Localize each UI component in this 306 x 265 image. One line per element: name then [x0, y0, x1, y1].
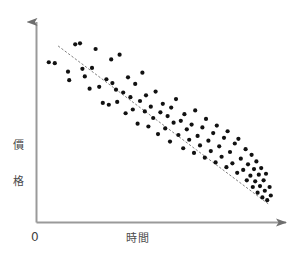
trendline — [58, 46, 268, 204]
scatter-point — [168, 140, 172, 144]
scatter-point — [224, 165, 228, 169]
scatter-point — [254, 159, 258, 163]
scatter-point — [217, 144, 221, 148]
scatter-point — [222, 136, 226, 140]
scatter-point — [94, 47, 98, 51]
scatter-point — [110, 81, 114, 85]
scatter-point — [143, 109, 147, 113]
scatter-point — [230, 161, 234, 165]
scatter-point — [233, 141, 237, 145]
scatter-point — [124, 111, 128, 115]
scatter-point — [151, 116, 155, 120]
scatter-point — [196, 134, 200, 138]
scatter-plot-figure: 價 格 時間 0 — [0, 0, 306, 265]
scatter-point — [246, 162, 250, 166]
scatter-point — [192, 151, 196, 155]
scatter-point — [121, 90, 125, 94]
scatter-point — [220, 155, 224, 159]
scatter-point — [114, 88, 118, 92]
scatter-point — [252, 167, 256, 171]
scatter-point — [179, 119, 183, 123]
scatter-point — [251, 185, 255, 189]
scatter-point — [253, 179, 257, 183]
scatter-point — [115, 100, 119, 104]
scatter-point — [78, 41, 82, 45]
scatter-point — [161, 102, 165, 106]
scatter-point — [244, 147, 248, 151]
scatter-point — [206, 139, 210, 143]
scatter-point — [47, 60, 51, 64]
scatter-point — [209, 149, 213, 153]
scatter-point — [144, 93, 148, 97]
scatter-point — [174, 97, 178, 101]
scatter-point — [169, 106, 173, 110]
scatter-point — [256, 191, 260, 195]
scatter-point — [154, 89, 158, 93]
scatter-point — [204, 117, 208, 121]
scatter-point — [265, 198, 269, 202]
scatter-point — [239, 157, 243, 161]
scatter-point — [176, 133, 180, 137]
scatter-point — [258, 184, 262, 188]
scatter-point — [97, 85, 101, 89]
scatter-point — [269, 193, 273, 197]
scatter-point — [187, 138, 191, 142]
scatter-point — [259, 166, 263, 170]
scatter-point — [156, 132, 160, 136]
axes-group — [37, 22, 287, 223]
scatter-point — [193, 108, 197, 112]
scatter-point — [211, 131, 215, 135]
trendline-path — [58, 46, 268, 204]
scatter-point — [118, 53, 122, 57]
scatter-point — [190, 123, 194, 127]
scatter-point — [257, 173, 261, 177]
y-axis-label-char-2: 格 — [11, 176, 27, 188]
scatter-point — [80, 67, 84, 71]
scatter-point — [185, 127, 189, 131]
scatter-point — [66, 70, 70, 74]
y-axis-label-char-1: 價 — [11, 140, 27, 152]
scatter-point — [250, 153, 254, 157]
scatter-point — [101, 101, 105, 105]
scatter-point — [140, 71, 144, 75]
scatter-point — [149, 105, 153, 109]
plot-canvas — [0, 0, 306, 265]
scatter-point — [228, 150, 232, 154]
scatter-point — [83, 74, 87, 78]
scatter-point — [166, 114, 170, 118]
scatter-point — [104, 77, 108, 81]
scatter-point — [172, 121, 176, 125]
scatter-point — [53, 61, 57, 65]
scatter-point — [235, 171, 239, 175]
scatter-point — [203, 156, 207, 160]
scatter-point — [136, 122, 140, 126]
scatter-point — [241, 168, 245, 172]
origin-label: 0 — [31, 231, 40, 243]
scatter-point — [236, 137, 240, 141]
scatter-point — [131, 107, 135, 111]
scatter-point — [268, 185, 272, 189]
scatter-point — [226, 129, 230, 133]
scatter-point — [215, 123, 219, 127]
scatter-point — [181, 146, 185, 150]
scatter-point — [138, 99, 142, 103]
scatter-point — [264, 172, 268, 176]
scatter-point — [262, 178, 266, 182]
scatter-point — [198, 143, 202, 147]
scatter-point — [248, 174, 252, 178]
scatter-point — [182, 112, 186, 116]
scatter-point — [133, 82, 137, 86]
scatter-point — [128, 95, 132, 99]
scatter-point — [245, 178, 249, 182]
scatter-point — [200, 125, 204, 129]
scatter-point — [214, 160, 218, 164]
scatter-point — [109, 57, 113, 61]
scatter-point — [158, 110, 162, 114]
scatter-point — [67, 78, 71, 82]
x-axis-label: 時間 — [126, 233, 186, 245]
scatter-point — [263, 189, 267, 193]
scatter-point — [126, 75, 130, 79]
scatter-point — [163, 126, 167, 130]
scatter-point — [260, 195, 264, 199]
scatter-point — [88, 87, 92, 91]
